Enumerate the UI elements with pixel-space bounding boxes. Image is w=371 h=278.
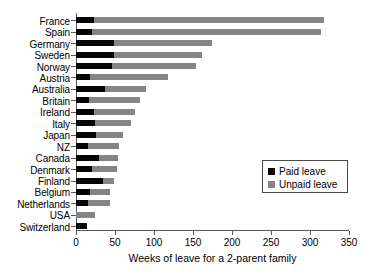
y-axis-tick	[71, 43, 76, 44]
bar-segment-paid	[76, 178, 103, 184]
y-axis-tick	[71, 226, 76, 227]
bar-segment-unpaid	[89, 97, 140, 103]
bar-segment-unpaid	[90, 74, 168, 80]
y-axis-label-britain: Britain	[0, 97, 70, 107]
bar-segment-unpaid	[114, 40, 212, 46]
x-axis-tick	[232, 231, 233, 235]
x-axis-title: Weeks of leave for a 2-parent family	[76, 252, 349, 264]
y-axis-label-germany: Germany	[0, 40, 70, 50]
bar-segment-paid	[76, 63, 112, 69]
y-axis-tick	[71, 77, 76, 78]
x-axis-tick-label: 50	[95, 237, 135, 248]
bar-segment-unpaid	[94, 109, 135, 115]
y-axis-tick	[71, 146, 76, 147]
bar-segment-unpaid	[88, 200, 110, 206]
y-axis-label-spain: Spain	[0, 28, 70, 38]
y-axis-tick	[71, 123, 76, 124]
y-axis-tick	[71, 192, 76, 193]
bar-segment-paid	[76, 223, 87, 229]
legend-item-unpaid-leave: Unpaid leave	[268, 178, 342, 190]
x-axis-tick	[271, 231, 272, 235]
legend-label-unpaid-leave: Unpaid leave	[279, 179, 337, 190]
chart-container: FranceSpainGermanySwedenNorwayAustriaAus…	[0, 0, 371, 278]
y-axis-label-canada: Canada	[0, 154, 70, 164]
y-axis-tick	[71, 203, 76, 204]
x-axis-tick	[115, 231, 116, 235]
bar-segment-unpaid	[90, 189, 110, 195]
x-axis-tick	[310, 231, 311, 235]
bar-segment-paid	[76, 52, 114, 58]
y-axis-tick	[71, 100, 76, 101]
y-axis-tick	[71, 55, 76, 56]
bar-segment-paid	[76, 132, 96, 138]
bar-segment-unpaid	[92, 166, 116, 172]
x-axis-tick-label: 350	[329, 237, 369, 248]
y-axis-label-usa: USA	[0, 211, 70, 221]
bar-segment-unpaid	[105, 86, 146, 92]
x-axis-tick	[76, 231, 77, 235]
x-axis-tick-label: 200	[212, 237, 252, 248]
bar-segment-paid	[76, 74, 90, 80]
x-axis-tick	[154, 231, 155, 235]
y-axis-tick	[71, 32, 76, 33]
y-axis-tick	[71, 135, 76, 136]
y-axis-label-austria: Austria	[0, 74, 70, 84]
x-axis-tick	[349, 231, 350, 235]
x-axis-tick-label: 150	[173, 237, 213, 248]
y-axis-category-labels: FranceSpainGermanySwedenNorwayAustriaAus…	[0, 13, 70, 230]
y-axis-label-ireland: Ireland	[0, 108, 70, 118]
y-axis-tick	[71, 215, 76, 216]
legend-label-paid-leave: Paid leave	[279, 166, 326, 177]
y-axis-label-france: France	[0, 17, 70, 27]
bar-segment-unpaid	[95, 120, 131, 126]
x-axis-tick-label: 0	[56, 237, 96, 248]
bar-segment-paid	[76, 155, 99, 161]
bar-segment-paid	[76, 120, 95, 126]
plot-area	[76, 13, 349, 230]
x-axis-tick-label: 250	[251, 237, 291, 248]
x-axis-line	[76, 230, 349, 231]
bar-segment-paid	[76, 40, 114, 46]
y-axis-label-netherlands: Netherlands	[0, 200, 70, 210]
y-axis-tick	[71, 181, 76, 182]
y-axis-label-australia: Australia	[0, 85, 70, 95]
y-axis-tick	[71, 89, 76, 90]
bar-segment-unpaid	[112, 63, 196, 69]
bar-segment-paid	[76, 109, 94, 115]
y-axis-label-denmark: Denmark	[0, 166, 70, 176]
bar-segment-unpaid	[92, 29, 321, 35]
bar-segment-unpaid	[114, 52, 202, 58]
bar-segment-paid	[76, 17, 94, 23]
y-axis-label-belgium: Belgium	[0, 188, 70, 198]
y-axis-label-finland: Finland	[0, 177, 70, 187]
y-axis-label-nz: NZ	[0, 143, 70, 153]
y-axis-label-norway: Norway	[0, 63, 70, 73]
y-axis-label-japan: Japan	[0, 131, 70, 141]
bar-segment-unpaid	[76, 212, 95, 218]
bar-segment-unpaid	[88, 143, 118, 149]
x-axis-tick	[193, 231, 194, 235]
bar-segment-paid	[76, 143, 88, 149]
bar-segment-unpaid	[94, 17, 324, 23]
bar-segment-paid	[76, 29, 92, 35]
y-axis-label-italy: Italy	[0, 120, 70, 130]
bar-segment-unpaid	[99, 155, 119, 161]
y-axis-tick	[71, 20, 76, 21]
bar-segment-paid	[76, 86, 105, 92]
legend-swatch-unpaid-leave	[268, 181, 275, 188]
y-axis-label-switzerland: Switzerland	[0, 223, 70, 233]
y-axis-tick	[71, 158, 76, 159]
bar-segment-paid	[76, 200, 88, 206]
bar-segment-unpaid	[96, 132, 123, 138]
legend-swatch-paid-leave	[268, 168, 275, 175]
bar-segment-unpaid	[103, 178, 115, 184]
bar-segment-paid	[76, 166, 92, 172]
x-axis-tick-label: 100	[134, 237, 174, 248]
y-axis-tick	[71, 169, 76, 170]
x-axis-tick-label: 300	[290, 237, 330, 248]
y-axis-tick	[71, 112, 76, 113]
y-axis-label-sweden: Sweden	[0, 51, 70, 61]
y-axis-tick	[71, 66, 76, 67]
legend-item-paid-leave: Paid leave	[268, 165, 342, 177]
chart-legend: Paid leave Unpaid leave	[262, 160, 348, 193]
